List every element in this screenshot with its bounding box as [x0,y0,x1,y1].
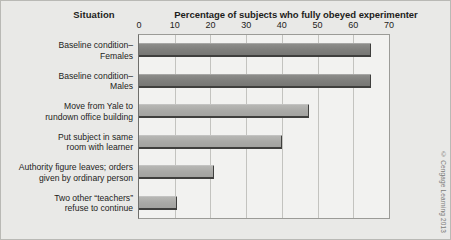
category-label: Move from Yale torundown office building [1,101,139,122]
x-tick-label-50: 50 [313,20,323,30]
category-label-line1: Two other “teachers” [1,192,133,203]
category-label: Authority figure leaves; ordersgiven by … [1,162,139,183]
bar-container [139,165,214,179]
column-header-situation: Situation [49,9,139,20]
category-label: Put subject in sameroom with learner [1,131,139,152]
bar [139,196,177,210]
bar [139,165,214,179]
bar-container [139,74,371,88]
category-label-line2: Females [1,50,133,61]
category-label: Baseline condition–Females [1,40,139,61]
category-label-line2: room with learner [1,142,133,153]
bar [139,74,371,88]
category-label-line2: refuse to continue [1,203,133,214]
bar [139,104,309,118]
x-tick-label-0: 0 [136,20,141,30]
bar-row: Baseline condition–Males [139,66,389,97]
chart-title: Percentage of subjects who fully obeyed … [151,9,441,20]
bar-container [139,196,177,210]
bar [139,43,371,57]
bar-row: Two other “teachers”refuse to continue [139,188,389,219]
bar-container [139,104,309,118]
x-tick-label-20: 20 [205,20,215,30]
category-label-line2: rundown office building [1,111,133,122]
bar [139,135,282,149]
category-label-line2: Males [1,81,133,92]
bar-row: Baseline condition–Females [139,35,389,66]
x-tick-label-30: 30 [241,20,251,30]
x-tick-label-10: 10 [170,20,180,30]
x-tick-label-40: 40 [277,20,287,30]
category-label: Two other “teachers”refuse to continue [1,192,139,213]
category-label-line1: Put subject in same [1,131,133,142]
x-tick-label-60: 60 [348,20,358,30]
chart-figure: Situation Percentage of subjects who ful… [0,0,451,240]
plot-area: 010203040506070 Baseline condition–Femal… [138,34,390,219]
copyright-credit: © Cengage Learning 2013 [440,151,447,233]
category-label-line2: given by ordinary person [1,172,133,183]
x-tick-label-70: 70 [384,20,394,30]
category-label: Baseline condition–Males [1,70,139,91]
category-label-line1: Move from Yale to [1,101,133,112]
bar-row: Put subject in sameroom with learner [139,127,389,158]
category-label-line1: Authority figure leaves; orders [1,162,133,173]
bar-container [139,43,371,57]
bar-container [139,135,282,149]
bar-row: Authority figure leaves; ordersgiven by … [139,157,389,188]
bar-row: Move from Yale torundown office building [139,96,389,127]
category-label-line1: Baseline condition– [1,70,133,81]
category-label-line1: Baseline condition– [1,40,133,51]
